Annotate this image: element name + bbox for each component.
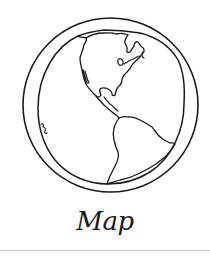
galapagos-outline	[41, 124, 47, 134]
map-label: Map	[0, 204, 210, 238]
map-icon-card[interactable]: Map	[0, 0, 210, 260]
south-america-west-coast	[107, 118, 119, 184]
newfoundland-outline	[118, 59, 123, 66]
globe-inner-ring	[38, 30, 184, 184]
caribbean-outline	[104, 97, 118, 111]
arctic-coast-outline	[86, 33, 128, 38]
north-america-outline	[78, 36, 143, 97]
divider	[0, 250, 210, 251]
central-america-outline	[96, 96, 119, 118]
globe-americas-icon	[0, 0, 210, 205]
